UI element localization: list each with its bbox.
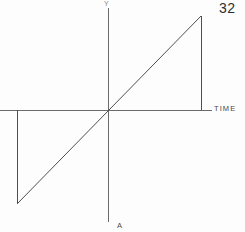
y-axis-label: Y	[104, 0, 109, 7]
page-number: 32	[219, 1, 235, 15]
x-axis-label: TIME	[214, 105, 236, 113]
figure-caption-label: A	[117, 222, 122, 230]
figure-container: 32 Y TIME A	[0, 0, 245, 232]
waveform-plot	[0, 0, 245, 232]
